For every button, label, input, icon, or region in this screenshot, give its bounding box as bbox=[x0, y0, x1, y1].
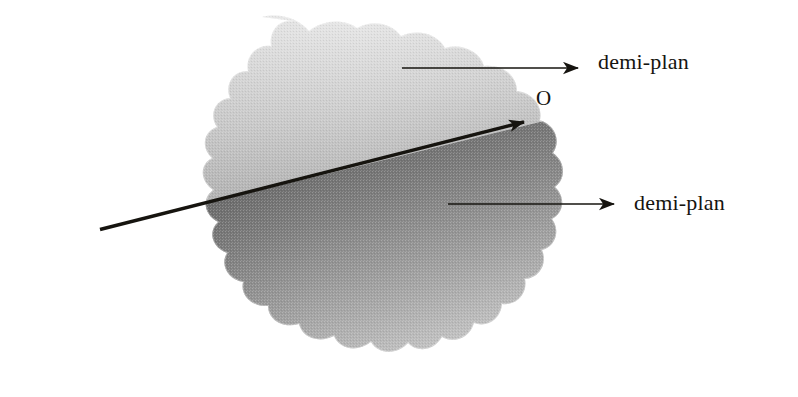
label-point-o: O bbox=[536, 86, 551, 111]
label-demi-plan-upper: demi-plan bbox=[598, 49, 689, 75]
figure-canvas: demi-plan demi-plan O bbox=[0, 0, 798, 397]
label-demi-plan-lower: demi-plan bbox=[634, 190, 725, 216]
